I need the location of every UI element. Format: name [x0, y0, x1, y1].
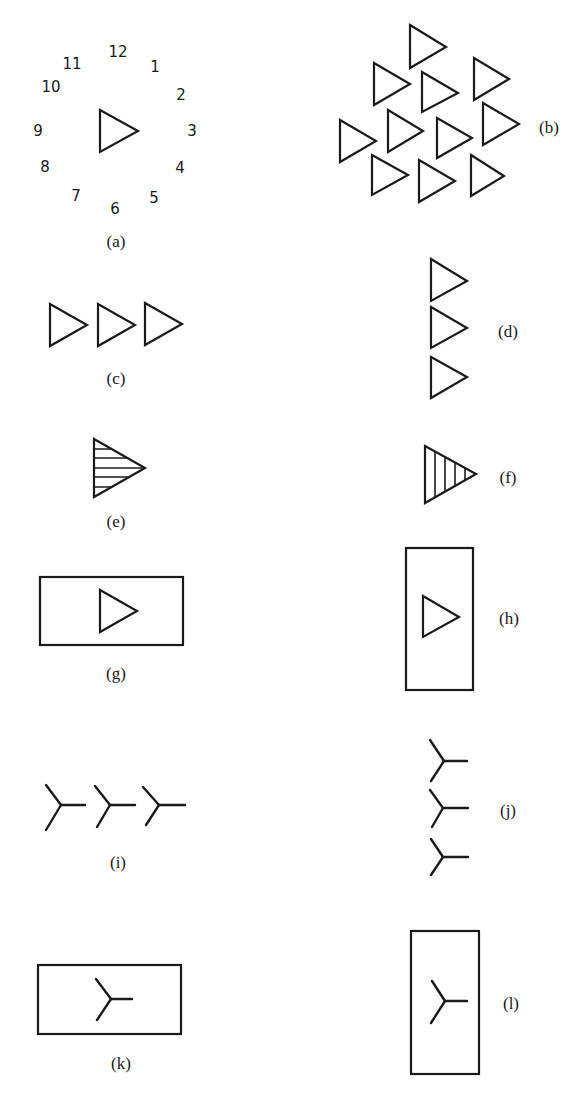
panel-label-j: (j) — [500, 801, 516, 820]
triangle-icon — [50, 304, 87, 346]
panel-label-i: (i) — [110, 853, 126, 872]
triangle-row — [50, 303, 182, 346]
y-shape-row — [46, 785, 185, 830]
panel-label-l: (l) — [503, 994, 519, 1013]
framed-triangle — [100, 590, 137, 632]
vertical-frame — [406, 548, 473, 690]
framed-y-shape — [431, 981, 467, 1023]
triangle-icon — [483, 103, 519, 145]
triangle-icon — [98, 304, 135, 346]
panel-l: (l) — [411, 931, 519, 1074]
clock-number: 3 — [187, 122, 197, 140]
panel-label-b: (b) — [539, 118, 559, 137]
y-shape-icon — [46, 785, 85, 830]
panel-d: (d) — [431, 259, 518, 398]
panel-g: (g) — [40, 577, 183, 683]
panel-f: (f) — [425, 446, 516, 503]
triangle-icon — [100, 110, 138, 152]
y-shape-icon — [430, 740, 467, 781]
panel-label-e: (e) — [107, 512, 126, 531]
y-shape-icon — [431, 839, 468, 875]
panel-label-k: (k) — [111, 1054, 131, 1073]
panel-label-f: (f) — [500, 468, 517, 487]
triangle-icon — [374, 63, 410, 105]
panel-h: (h) — [406, 548, 519, 690]
triangle-icon — [471, 155, 504, 196]
clock-number: 9 — [33, 122, 43, 140]
panel-a: 121234567891011 (a) — [33, 43, 197, 251]
triangle-icon — [423, 596, 459, 637]
panel-k: (k) — [38, 965, 181, 1073]
horizontally-hatched-triangle — [94, 439, 145, 497]
y-shape-icon — [431, 981, 467, 1023]
clock-number: 10 — [41, 78, 60, 96]
clock-number: 4 — [175, 159, 185, 177]
y-shape-column — [430, 740, 468, 875]
frame-rectangle — [406, 548, 473, 690]
clock-number: 5 — [149, 189, 159, 207]
triangle-icon — [474, 58, 509, 100]
figure-canvas: 121234567891011 (a) (b) (c) (d) (e) (f) … — [0, 0, 581, 1101]
y-shape-icon — [95, 786, 135, 827]
triangle-icon — [410, 25, 446, 68]
panel-label-h: (h) — [499, 609, 519, 628]
clock-number: 12 — [108, 43, 127, 61]
triangle-icon — [431, 307, 467, 348]
clock-number: 11 — [62, 55, 81, 73]
triangle-icon — [388, 110, 423, 152]
panel-label-a: (a) — [107, 232, 126, 251]
triangle-icon — [340, 120, 376, 162]
triangle-icon — [431, 259, 467, 301]
triangle-icon — [145, 303, 182, 345]
triangle-icon — [100, 590, 137, 632]
y-shape-icon — [96, 979, 132, 1020]
clock-number: 6 — [110, 200, 120, 218]
y-shape-icon — [143, 787, 185, 825]
panel-b: (b) — [340, 25, 559, 202]
triangle-icon — [437, 118, 472, 158]
panel-label-d: (d) — [498, 322, 518, 341]
panel-i: (i) — [46, 785, 185, 872]
panel-e: (e) — [94, 439, 145, 531]
y-shape-icon — [430, 790, 468, 827]
triangle-icon — [422, 72, 458, 112]
triangle-cluster — [340, 25, 519, 202]
clock-number: 1 — [150, 58, 160, 76]
clock-number: 2 — [176, 86, 186, 104]
triangle-icon — [431, 357, 467, 398]
triangle-group — [100, 110, 138, 152]
triangle-column — [431, 259, 467, 398]
horizontal-frame — [40, 577, 183, 645]
panel-label-g: (g) — [106, 664, 126, 683]
vertically-hatched-triangle — [425, 446, 476, 503]
frame-rectangle — [40, 577, 183, 645]
clock-numbers: 121234567891011 — [33, 43, 197, 218]
triangle-icon — [419, 160, 455, 202]
framed-y-shape — [96, 979, 132, 1020]
panel-j: (j) — [430, 740, 516, 875]
clock-number: 7 — [71, 187, 81, 205]
hatched-triangle-icon — [425, 446, 476, 503]
panel-label-c: (c) — [107, 369, 126, 388]
triangle-icon — [372, 155, 408, 195]
clock-number: 8 — [40, 158, 50, 176]
panel-c: (c) — [50, 303, 182, 388]
framed-triangle — [423, 596, 459, 637]
